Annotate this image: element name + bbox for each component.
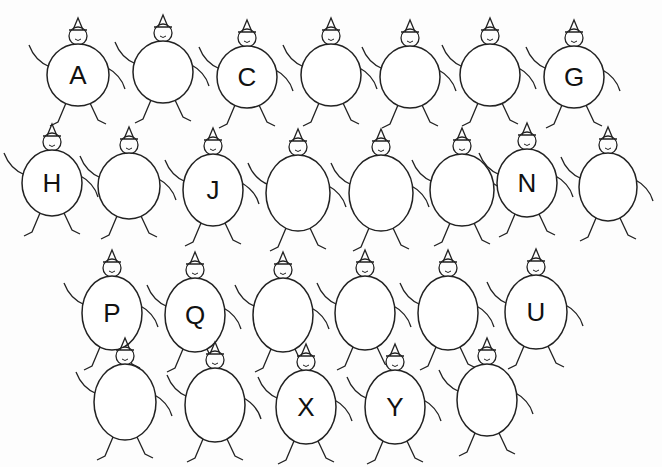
figure [167, 342, 261, 462]
figure [561, 127, 653, 241]
letter-label: U [527, 299, 546, 325]
letter-label: J [207, 177, 220, 203]
figure [80, 127, 176, 239]
letter-label: N [518, 170, 537, 196]
letter-label: H [43, 170, 62, 196]
figure [115, 15, 209, 123]
figure [76, 338, 172, 460]
letter-label: A [69, 62, 86, 88]
figure [442, 18, 536, 126]
figure [412, 128, 510, 246]
figure [248, 129, 346, 251]
worksheet-art [0, 0, 662, 467]
figure [235, 252, 329, 372]
letter-label: G [564, 64, 584, 90]
letter-label: X [297, 394, 314, 420]
letter-label: Y [386, 394, 403, 420]
figure [362, 20, 456, 128]
letter-label: P [103, 300, 120, 326]
figure [317, 250, 411, 370]
figure [283, 18, 377, 126]
letter-label: C [238, 64, 257, 90]
figure [439, 338, 533, 456]
figure [331, 129, 429, 251]
letter-label: Q [185, 302, 205, 328]
